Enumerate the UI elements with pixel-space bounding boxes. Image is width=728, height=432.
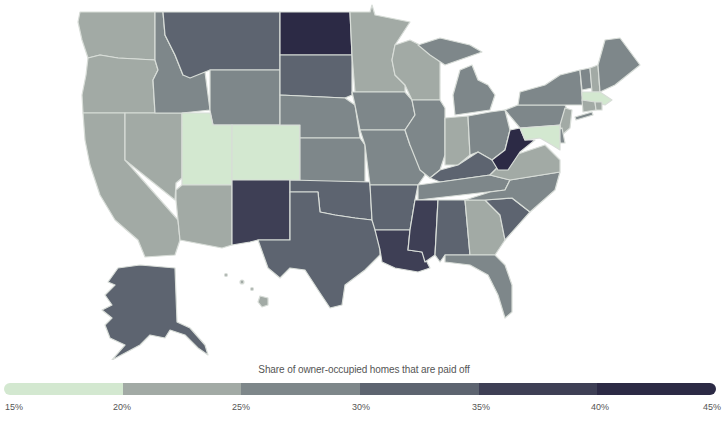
state-OR[interactable] (82, 55, 158, 113)
legend-segment-5 (597, 383, 716, 395)
us-choropleth-map (0, 0, 728, 360)
legend-tick-20: 20% (113, 402, 131, 412)
legend-segment-4 (479, 383, 598, 395)
legend-segment-2 (241, 383, 360, 395)
legend-segment-1 (123, 383, 242, 395)
state-WY[interactable] (210, 70, 280, 125)
state-HI[interactable] (258, 296, 268, 307)
legend-segment-0 (4, 383, 123, 395)
state-HI-island-1[interactable] (225, 274, 228, 277)
legend-segment-3 (360, 383, 479, 395)
state-IN[interactable] (445, 116, 470, 165)
legend-tick-40: 40% (591, 402, 609, 412)
legend-tick-45: 45% (703, 402, 721, 412)
state-CT[interactable] (582, 100, 596, 112)
legend-color-scale (4, 383, 716, 395)
state-AL[interactable] (435, 200, 470, 262)
state-HI-island-2[interactable] (240, 280, 244, 284)
state-ND[interactable] (280, 12, 352, 55)
state-MT[interactable] (163, 12, 280, 78)
legend-tick-25: 25% (232, 402, 250, 412)
legend-title: Share of owner-occupied homes that are p… (0, 364, 728, 375)
state-FL[interactable] (445, 255, 512, 318)
state-ME[interactable] (598, 38, 640, 92)
map-svg (0, 0, 728, 360)
state-NY[interactable] (518, 70, 585, 105)
legend-tick-15: 15% (5, 402, 23, 412)
state-WA[interactable] (78, 12, 155, 60)
state-AK[interactable] (102, 265, 208, 360)
legend-tick-35: 35% (472, 402, 490, 412)
state-HI-island-3[interactable] (251, 288, 254, 291)
state-CO[interactable] (232, 125, 300, 185)
state-RI[interactable] (595, 102, 602, 110)
state-KS[interactable] (300, 138, 365, 182)
state-AZ[interactable] (176, 185, 232, 248)
state-MI[interactable] (453, 65, 495, 115)
state-NY-LI[interactable] (575, 112, 593, 120)
state-IA[interactable] (352, 92, 415, 130)
state-NM[interactable] (232, 180, 290, 245)
state-SD[interactable] (280, 55, 352, 98)
legend: Share of owner-occupied homes that are p… (0, 362, 728, 432)
legend-tick-30: 30% (352, 402, 370, 412)
